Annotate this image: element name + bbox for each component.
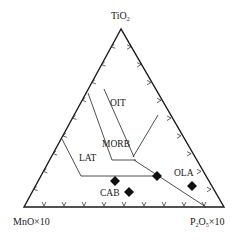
- data-point-diamond: [187, 181, 197, 191]
- field-boundaries: [62, 89, 206, 207]
- apex-label-tio2: TiO2: [111, 10, 130, 22]
- right-edge-ticks: [127, 45, 211, 192]
- data-point-diamond: [124, 187, 134, 197]
- field-label-ola: OLA: [174, 168, 194, 178]
- apex-label-mno: MnO×10: [13, 216, 50, 227]
- triangle-frame: [24, 29, 224, 207]
- apex-label-p2o5: P2O5×10: [190, 216, 224, 228]
- ola-boundary: [134, 160, 206, 207]
- data-point-diamond: [110, 176, 120, 186]
- ternary-diagram: TiO2 MnO×10 P2O5×10 OIT MORB LAT OLA CAB: [0, 0, 240, 241]
- field-label-morb: MORB: [102, 139, 130, 149]
- field-label-cab: CAB: [100, 188, 120, 198]
- left-edge-ticks: [34, 44, 116, 190]
- bottom-edge-ticks: [42, 202, 206, 206]
- field-label-lat: LAT: [79, 153, 97, 163]
- oit-right-boundary: [133, 115, 158, 157]
- field-label-oit: OIT: [110, 98, 126, 108]
